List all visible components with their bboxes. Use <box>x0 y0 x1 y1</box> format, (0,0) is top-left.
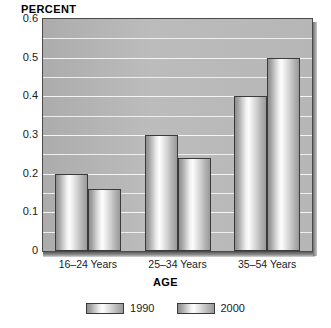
bar-2000-0 <box>88 189 121 251</box>
gridline <box>43 38 312 39</box>
y-tick-label: 0.3 <box>6 129 38 140</box>
legend-swatch <box>86 303 124 314</box>
x-axis-title: AGE <box>0 276 331 288</box>
y-tick-label: 0.6 <box>6 13 38 24</box>
legend-label: 2000 <box>221 303 245 314</box>
legend-item-1990: 1990 <box>86 303 154 314</box>
x-tick-label: 25–34 Years <box>133 258 223 270</box>
legend-label: 1990 <box>130 303 154 314</box>
plot-right-shadow <box>313 22 317 256</box>
plot-area <box>42 18 313 252</box>
bar-1990-0 <box>55 174 88 251</box>
bar-chart: PERCENT 00.10.20.30.40.50.6 16–24 Years2… <box>0 0 331 328</box>
x-tick-label: 35–54 Years <box>222 258 312 270</box>
y-tick-label: 0 <box>6 245 38 256</box>
baseline-shadow <box>43 252 315 257</box>
legend-swatch <box>177 303 215 314</box>
x-tick-label: 16–24 Years <box>43 258 133 270</box>
chart-legend: 19902000 <box>0 303 331 314</box>
bar-1990-2 <box>234 96 267 251</box>
legend-item-2000: 2000 <box>177 303 245 314</box>
y-tick-label: 0.1 <box>6 206 38 217</box>
y-tick-label: 0.4 <box>6 90 38 101</box>
y-tick-label: 0.2 <box>6 168 38 179</box>
bar-2000-2 <box>267 58 300 251</box>
bar-2000-1 <box>178 158 211 251</box>
y-tick-label: 0.5 <box>6 52 38 63</box>
bar-1990-1 <box>145 135 178 251</box>
